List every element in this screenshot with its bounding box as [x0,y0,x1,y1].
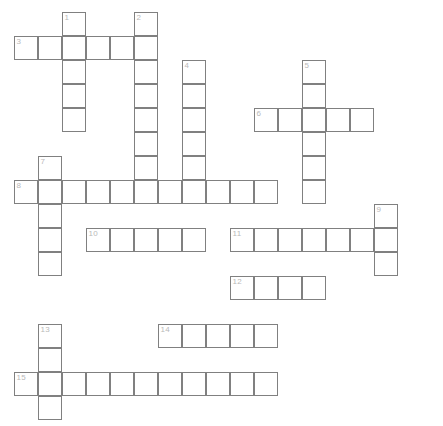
crossword-cell[interactable] [110,36,134,60]
cell-number-6: 6 [257,109,262,118]
cell-number-4: 4 [185,61,190,70]
crossword-cell[interactable] [62,108,86,132]
crossword-cell[interactable] [350,228,374,252]
crossword-cell[interactable] [110,228,134,252]
crossword-cell[interactable] [206,180,230,204]
crossword-puzzle: 123456789101112131415 [0,0,443,426]
crossword-cell[interactable] [134,60,158,84]
crossword-cell[interactable] [278,228,302,252]
crossword-cell[interactable] [182,324,206,348]
crossword-cell[interactable] [302,132,326,156]
crossword-cell[interactable] [86,372,110,396]
crossword-cell[interactable] [38,252,62,276]
crossword-cell-numbered-13[interactable]: 13 [38,324,62,348]
crossword-cell[interactable] [254,180,278,204]
crossword-cell[interactable] [134,108,158,132]
crossword-cell-numbered-6[interactable]: 6 [254,108,278,132]
crossword-cell[interactable] [134,156,158,180]
crossword-cell[interactable] [38,228,62,252]
crossword-cell-numbered-1[interactable]: 1 [62,12,86,36]
crossword-cell[interactable] [278,108,302,132]
crossword-cell-numbered-9[interactable]: 9 [374,204,398,228]
crossword-grid[interactable]: 123456789101112131415 [0,0,443,426]
crossword-cell[interactable] [206,324,230,348]
crossword-cell-numbered-4[interactable]: 4 [182,60,206,84]
crossword-cell[interactable] [62,60,86,84]
crossword-cell[interactable] [254,324,278,348]
crossword-cell[interactable] [134,372,158,396]
crossword-cell[interactable] [326,108,350,132]
crossword-cell[interactable] [302,276,326,300]
crossword-cell[interactable] [254,228,278,252]
crossword-cell[interactable] [38,372,62,396]
cell-number-13: 13 [41,325,51,334]
crossword-cell[interactable] [158,180,182,204]
crossword-cell[interactable] [302,84,326,108]
crossword-cell-numbered-7[interactable]: 7 [38,156,62,180]
crossword-cell[interactable] [134,228,158,252]
crossword-cell[interactable] [230,180,254,204]
crossword-cell[interactable] [302,108,326,132]
crossword-cell[interactable] [182,108,206,132]
crossword-cell[interactable] [134,132,158,156]
crossword-cell[interactable] [86,36,110,60]
crossword-cell[interactable] [350,108,374,132]
crossword-cell[interactable] [158,372,182,396]
crossword-cell[interactable] [302,156,326,180]
cell-number-8: 8 [17,181,22,190]
cell-number-10: 10 [89,229,99,238]
crossword-cell-numbered-15[interactable]: 15 [14,372,38,396]
cell-number-1: 1 [65,13,70,22]
crossword-cell-numbered-12[interactable]: 12 [230,276,254,300]
crossword-cell[interactable] [38,180,62,204]
crossword-cell[interactable] [254,276,278,300]
crossword-cell-numbered-10[interactable]: 10 [86,228,110,252]
cell-number-15: 15 [17,373,27,382]
cell-number-5: 5 [305,61,310,70]
crossword-cell[interactable] [86,180,110,204]
cell-number-14: 14 [161,325,171,334]
cell-number-9: 9 [377,205,382,214]
crossword-cell[interactable] [374,228,398,252]
crossword-cell[interactable] [62,180,86,204]
cell-number-11: 11 [233,229,242,238]
crossword-cell[interactable] [302,180,326,204]
crossword-cell[interactable] [158,228,182,252]
crossword-cell[interactable] [230,324,254,348]
crossword-cell[interactable] [254,372,278,396]
cell-number-7: 7 [41,157,46,166]
crossword-cell-numbered-11[interactable]: 11 [230,228,254,252]
crossword-cell[interactable] [38,36,62,60]
crossword-cell-numbered-3[interactable]: 3 [14,36,38,60]
crossword-cell-numbered-5[interactable]: 5 [302,60,326,84]
crossword-cell[interactable] [182,372,206,396]
crossword-cell-numbered-2[interactable]: 2 [134,12,158,36]
crossword-cell[interactable] [62,36,86,60]
crossword-cell[interactable] [38,204,62,228]
crossword-cell-numbered-14[interactable]: 14 [158,324,182,348]
crossword-cell-numbered-8[interactable]: 8 [14,180,38,204]
crossword-cell[interactable] [182,132,206,156]
crossword-cell[interactable] [134,180,158,204]
crossword-cell[interactable] [38,348,62,372]
crossword-cell[interactable] [134,84,158,108]
crossword-cell[interactable] [230,372,254,396]
cell-number-12: 12 [233,277,243,286]
crossword-cell[interactable] [134,36,158,60]
crossword-cell[interactable] [182,228,206,252]
crossword-cell[interactable] [62,372,86,396]
crossword-cell[interactable] [326,228,350,252]
crossword-cell[interactable] [182,84,206,108]
crossword-cell[interactable] [278,276,302,300]
crossword-cell[interactable] [182,180,206,204]
crossword-cell[interactable] [110,372,134,396]
crossword-cell[interactable] [374,252,398,276]
cell-number-2: 2 [137,13,142,22]
cell-number-3: 3 [17,37,22,46]
crossword-cell[interactable] [110,180,134,204]
crossword-cell[interactable] [182,156,206,180]
crossword-cell[interactable] [206,372,230,396]
crossword-cell[interactable] [62,84,86,108]
crossword-cell[interactable] [302,228,326,252]
crossword-cell[interactable] [38,396,62,420]
